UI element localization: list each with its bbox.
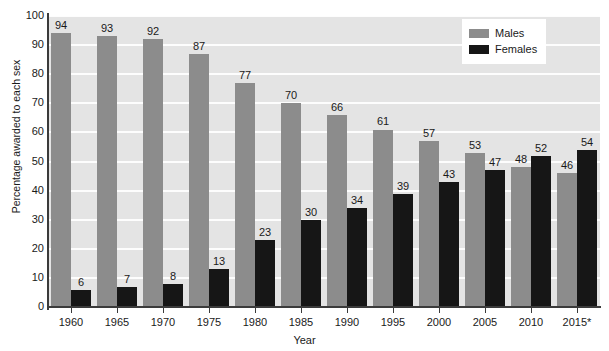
bar-value-label: 87 <box>179 40 219 52</box>
bar-value-label: 8 <box>153 270 193 282</box>
y-axis-tick-label: 50 <box>18 156 44 167</box>
x-axis-title: Year <box>0 334 609 346</box>
y-axis-tick-label: 40 <box>18 185 44 196</box>
bar-value-label: 6 <box>61 276 101 288</box>
bar-females-2010 <box>531 156 551 307</box>
x-axis-tick-mark <box>209 307 210 313</box>
bar-females-1985 <box>301 220 321 307</box>
gridline <box>48 131 600 133</box>
bar-value-label: 48 <box>501 153 541 165</box>
bar-value-label: 13 <box>199 255 239 267</box>
y-axis-line <box>47 13 49 310</box>
x-axis-tick-mark <box>117 307 118 313</box>
bar-value-label: 7 <box>107 273 147 285</box>
bar-value-label: 61 <box>363 115 403 127</box>
y-axis-tick-label: 80 <box>18 68 44 79</box>
bar-females-2015 <box>577 150 597 307</box>
x-axis-tick-mark <box>163 307 164 313</box>
x-axis-tick-mark <box>71 307 72 313</box>
bar-value-label: 43 <box>429 168 469 180</box>
bar-males-1995 <box>373 130 393 308</box>
bar-value-label: 66 <box>317 101 357 113</box>
y-axis-tick-label: 60 <box>18 126 44 137</box>
legend-item-males[interactable]: Males <box>469 25 539 41</box>
y-axis-title: Percentage awarded to each sex <box>11 37 22 237</box>
bar-females-1995 <box>393 194 413 307</box>
legend-label-males: Males <box>495 27 524 39</box>
y-axis-tick-label: 20 <box>18 243 44 254</box>
bar-value-label: 70 <box>271 89 311 101</box>
y-axis-tick-label: 90 <box>18 39 44 50</box>
bar-females-1965 <box>117 287 137 307</box>
y-axis-tick-label: 30 <box>18 214 44 225</box>
bar-males-1960 <box>51 33 71 307</box>
bar-value-label: 92 <box>133 25 173 37</box>
x-axis-tick-mark <box>439 307 440 313</box>
chart-legend: Males Females <box>462 19 546 64</box>
legend-swatch-males-icon <box>469 29 489 38</box>
bar-males-1980 <box>235 83 255 307</box>
bar-value-label: 94 <box>41 19 81 31</box>
bar-males-1970 <box>143 39 163 307</box>
x-axis-tick-mark <box>301 307 302 313</box>
x-axis-tick-label: 2015* <box>549 316 605 328</box>
x-axis-tick-mark <box>531 307 532 313</box>
bar-value-label: 46 <box>547 159 587 171</box>
legend-item-females[interactable]: Females <box>469 41 539 57</box>
bar-value-label: 39 <box>383 180 423 192</box>
bar-males-2015 <box>557 173 577 307</box>
bar-value-label: 57 <box>409 127 449 139</box>
x-axis-tick-mark <box>485 307 486 313</box>
x-axis-line <box>47 306 601 308</box>
y-axis-tick-label: 10 <box>18 272 44 283</box>
bar-value-label: 93 <box>87 22 127 34</box>
bar-value-label: 34 <box>337 194 377 206</box>
bar-males-2010 <box>511 167 531 307</box>
bar-value-label: 54 <box>567 136 607 148</box>
bar-chart: 0102030405060708090100 Percentage awarde… <box>0 0 609 351</box>
bar-females-1980 <box>255 240 275 307</box>
bar-females-1960 <box>71 290 91 307</box>
bar-males-2000 <box>419 141 439 307</box>
bar-value-label: 77 <box>225 69 265 81</box>
bar-value-label: 30 <box>291 206 331 218</box>
legend-label-females: Females <box>495 43 537 55</box>
bar-females-1975 <box>209 269 229 307</box>
x-axis-tick-mark <box>347 307 348 313</box>
bar-males-1965 <box>97 36 117 307</box>
bar-females-2000 <box>439 182 459 307</box>
x-axis-tick-mark <box>393 307 394 313</box>
y-axis-tick-label: 0 <box>18 301 44 312</box>
bar-females-2005 <box>485 170 505 307</box>
y-axis-tick-label: 70 <box>18 97 44 108</box>
bar-value-label: 23 <box>245 226 285 238</box>
bar-females-1970 <box>163 284 183 307</box>
chart-title-remnant <box>0 0 609 8</box>
legend-swatch-females-icon <box>469 45 489 54</box>
gridline <box>48 16 600 17</box>
x-axis-tick-mark <box>255 307 256 313</box>
bar-value-label: 52 <box>521 142 561 154</box>
x-axis-tick-mark <box>577 307 578 313</box>
bar-females-1990 <box>347 208 367 307</box>
bar-value-label: 53 <box>455 139 495 151</box>
gridline <box>48 73 600 75</box>
